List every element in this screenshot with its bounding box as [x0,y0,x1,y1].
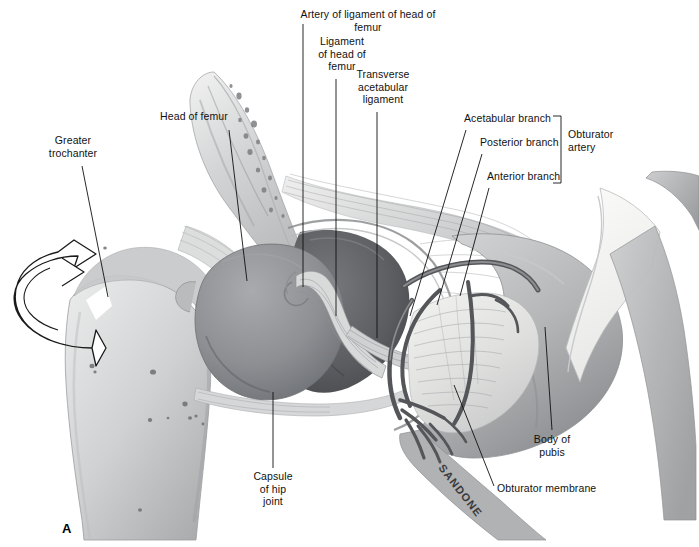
label-head-of-femur: Head of femur [153,110,235,123]
cut-bone-surface [566,171,699,520]
label-posterior-branch: Posterior branch [480,136,570,149]
panel-label: A [62,521,71,536]
label-ligament-of-head-of-femur: Ligament of head of femur [306,35,378,73]
label-obturator-membrane: Obturator membrane [497,482,615,495]
label-capsule-of-hip-joint: Capsule of hip joint [247,470,299,508]
label-transverse-acetabular-ligament: Transverse acetabular ligament [348,68,418,106]
figure-canvas: SANDONE Artery of ligament of head of fe… [0,0,699,547]
label-anterior-branch: Anterior branch [487,170,573,183]
label-obturator-artery: Obturator artery [568,128,630,153]
label-body-of-pubis: Body of pubis [524,433,580,458]
label-artery-of-ligament-of-head-of-femur: Artery of ligament of head of femur [288,8,448,33]
rotation-arrow [14,240,112,366]
label-greater-trochanter: Greater trochanter [41,134,105,159]
label-acetabular-branch: Acetabular branch [464,112,564,125]
